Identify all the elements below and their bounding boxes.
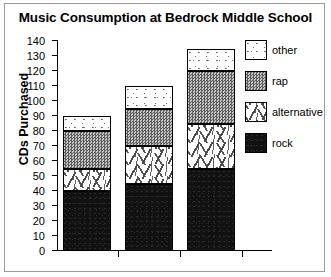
y-tick: 120: [52, 70, 58, 71]
legend-swatch-alternative: [245, 102, 267, 122]
bar-6th-graders: [63, 116, 111, 251]
y-tick: 90: [52, 115, 58, 116]
bar-segment-rap: [187, 71, 235, 124]
chart-figure: Music Consumption at Bedrock Middle Scho…: [4, 3, 325, 272]
y-tick: 110: [52, 85, 58, 86]
y-tick: 130: [52, 55, 58, 56]
y-tick: 50: [52, 175, 58, 176]
y-tick: 70: [52, 145, 58, 146]
bar-segment-alternative: [125, 146, 173, 184]
y-tick-label: 30: [5, 206, 45, 207]
y-tick-label: 90: [5, 116, 45, 117]
plot-area: 0102030405060708090100110120130140 6th g…: [57, 37, 272, 251]
y-tick-label: 50: [5, 176, 45, 177]
bar-segment-alternative: [187, 124, 235, 169]
legend-label: rock: [272, 137, 293, 149]
bar-8th-graders: [187, 49, 235, 252]
y-tick: 40: [52, 190, 58, 191]
x-tick: [118, 251, 119, 257]
bar-segment-alternative: [63, 169, 111, 192]
y-tick: 60: [52, 160, 58, 161]
y-tick: 100: [52, 100, 58, 101]
y-tick-label: 140: [5, 41, 45, 42]
y-tick-label: 0: [5, 251, 45, 252]
y-tick-label: 70: [5, 146, 45, 147]
x-tick: [242, 251, 243, 257]
legend-swatch-other: [245, 40, 267, 60]
y-tick: 140: [52, 40, 58, 41]
y-tick-label: 20: [5, 221, 45, 222]
bar-segment-other: [63, 116, 111, 131]
y-tick: 10: [52, 235, 58, 236]
y-tick-label: 80: [5, 131, 45, 132]
y-tick-label: 10: [5, 236, 45, 237]
x-tick: [180, 251, 181, 257]
y-tick: 30: [52, 205, 58, 206]
bar-segment-rap: [63, 131, 111, 169]
y-tick: 0: [52, 250, 58, 251]
y-tick-label: 130: [5, 56, 45, 57]
bar-7th-graders: [125, 86, 173, 251]
legend-swatch-rock: [245, 133, 267, 153]
legend-label: alternative: [272, 106, 323, 118]
bar-segment-rock: [125, 184, 173, 252]
y-tick-label: 100: [5, 101, 45, 102]
legend-label: rap: [272, 75, 288, 87]
legend-swatch-rap: [245, 71, 267, 91]
bar-segment-rock: [63, 191, 111, 251]
y-tick-label: 120: [5, 71, 45, 72]
page-title: Music Consumption at Bedrock Middle Scho…: [5, 10, 326, 25]
bar-segment-other: [187, 49, 235, 72]
bar-segment-rock: [187, 169, 235, 252]
y-tick-label: 60: [5, 161, 45, 162]
legend-label: other: [272, 44, 297, 56]
bar-segment-rap: [125, 109, 173, 147]
y-tick: 80: [52, 130, 58, 131]
y-tick-label: 40: [5, 191, 45, 192]
y-tick-label: 110: [5, 86, 45, 87]
bar-segment-other: [125, 86, 173, 109]
y-tick: 20: [52, 220, 58, 221]
